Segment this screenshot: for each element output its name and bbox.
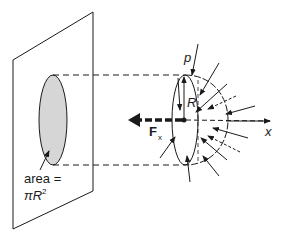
pressure-arrows xyxy=(160,44,255,182)
radius-arrow-down xyxy=(178,78,180,110)
projected-area-ellipse xyxy=(39,75,67,165)
center-point xyxy=(182,118,187,123)
diagram-canvas: p R F x x area = πR2 xyxy=(0,0,286,240)
area-R: R xyxy=(33,188,42,203)
axis-label: x xyxy=(264,124,272,139)
area-exponent: 2 xyxy=(42,187,47,196)
area-label-line2: πR2 xyxy=(24,187,47,203)
force-subscript: x xyxy=(158,133,162,142)
area-pi: π xyxy=(24,188,33,203)
force-fx-arrowhead xyxy=(128,113,140,127)
pressure-force-diagram: p R F x x area = πR2 xyxy=(0,0,286,240)
radius-label: R xyxy=(187,95,196,110)
area-label-line1: area = xyxy=(24,171,61,186)
pressure-label: p xyxy=(183,50,191,65)
force-label: F xyxy=(149,124,157,139)
